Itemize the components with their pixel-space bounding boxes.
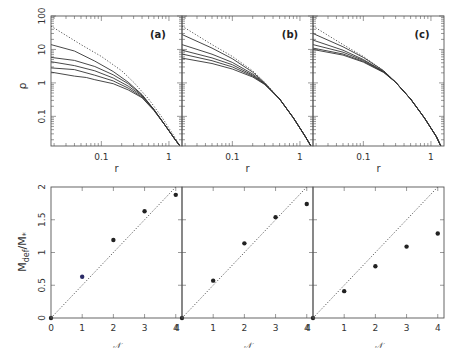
density-curve bbox=[51, 57, 180, 146]
x-axis-label-r: r bbox=[245, 163, 250, 174]
x-tick-label: 3 bbox=[404, 323, 410, 333]
data-point bbox=[211, 278, 215, 282]
data-point bbox=[404, 244, 408, 248]
axis-labels: ρ Mdef/M* (a) (b) (c) bbox=[16, 29, 430, 272]
x-tick-label: 2 bbox=[111, 323, 117, 333]
y-tick-label: 0.1 bbox=[37, 109, 47, 123]
data-point bbox=[273, 215, 277, 219]
x-tick-label: 0 bbox=[48, 323, 54, 333]
y-tick-label: 1 bbox=[37, 80, 47, 86]
reference-line bbox=[51, 26, 180, 146]
data-point bbox=[305, 202, 309, 206]
x-tick-label: 2 bbox=[242, 323, 248, 333]
data-point bbox=[242, 241, 246, 245]
y-tick-label: 1.5 bbox=[37, 213, 47, 227]
density-curve bbox=[51, 72, 180, 146]
panel-frame bbox=[51, 187, 182, 318]
x-axis-label-N: 𝒩 bbox=[375, 341, 385, 350]
x-tick-label: 0.1 bbox=[356, 152, 370, 162]
x-axis-label-r: r bbox=[114, 163, 119, 174]
density-curve bbox=[182, 50, 311, 146]
x-tick-label: 2 bbox=[373, 323, 379, 333]
density-curve bbox=[313, 40, 441, 146]
x-tick-label: 1 bbox=[428, 152, 434, 162]
x-tick-label: 1 bbox=[166, 152, 172, 162]
density-curve bbox=[313, 50, 441, 147]
density-profile-panels: 0.110.1110100r0.11r0.11r bbox=[37, 7, 444, 174]
y-axis-label-mass-ratio: Mdef/M* bbox=[16, 232, 31, 272]
data-point bbox=[142, 209, 146, 213]
x-tick-label: 1 bbox=[341, 323, 347, 333]
mass-panel-3: 12344𝒩 bbox=[305, 180, 444, 350]
density-curve bbox=[182, 45, 311, 146]
data-point bbox=[174, 193, 178, 197]
mass-panel-2: 12344𝒩 bbox=[174, 180, 313, 350]
y-tick-label: 100 bbox=[37, 7, 47, 24]
x-tick-label: 4 bbox=[305, 323, 311, 333]
data-point bbox=[111, 238, 115, 242]
x-tick-label: 3 bbox=[273, 323, 279, 333]
reference-line bbox=[182, 26, 311, 146]
x-tick-label: 1 bbox=[210, 323, 216, 333]
reference-line bbox=[313, 180, 444, 318]
y-tick-label: 10 bbox=[37, 43, 47, 55]
density-curve bbox=[51, 62, 180, 146]
panel-label-b: (b) bbox=[282, 29, 298, 40]
x-axis-label-r: r bbox=[376, 163, 381, 174]
mass-panel-1: 0123400.511.52𝒩 bbox=[37, 180, 182, 350]
reference-line bbox=[182, 180, 313, 318]
x-tick-label: 0.1 bbox=[225, 152, 239, 162]
y-tick-label: 2 bbox=[37, 184, 47, 190]
x-axis-label-N: 𝒩 bbox=[113, 341, 123, 350]
x-tick-label: 1 bbox=[297, 152, 303, 162]
panel-label-c: (c) bbox=[414, 29, 429, 40]
y-tick-label: 1 bbox=[37, 250, 47, 256]
x-axis-label-N: 𝒩 bbox=[244, 341, 254, 350]
x-tick-label: 4 bbox=[174, 323, 180, 333]
x-tick-label: 4 bbox=[435, 323, 441, 333]
density-curve bbox=[182, 58, 311, 146]
panel-frame bbox=[182, 187, 313, 318]
data-point bbox=[373, 264, 377, 268]
x-tick-label: 1 bbox=[79, 323, 85, 333]
x-tick-label: 0.1 bbox=[94, 152, 108, 162]
reference-line bbox=[313, 26, 441, 146]
panel-frame bbox=[313, 187, 444, 318]
data-point bbox=[80, 275, 84, 279]
data-point bbox=[436, 231, 440, 235]
reference-line bbox=[51, 180, 182, 318]
y-tick-label: 0 bbox=[37, 315, 47, 321]
density-curve bbox=[313, 45, 441, 146]
mass-deficit-panels: 0123400.511.52𝒩12344𝒩12344𝒩 bbox=[37, 180, 444, 350]
density-curve bbox=[313, 34, 441, 147]
density-curve bbox=[313, 48, 441, 146]
y-tick-label: 0.5 bbox=[37, 278, 47, 292]
data-point bbox=[342, 289, 346, 293]
figure: 0.110.1110100r0.11r0.11r 0123400.511.52𝒩… bbox=[0, 0, 453, 357]
y-axis-label-rho: ρ bbox=[16, 82, 29, 89]
panel-label-a: (a) bbox=[150, 29, 166, 40]
x-tick-label: 3 bbox=[142, 323, 148, 333]
